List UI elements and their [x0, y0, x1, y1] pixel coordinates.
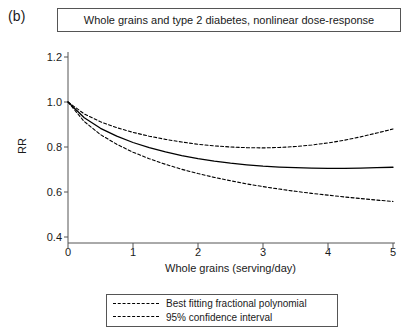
x-axis-title: Whole grains (serving/day) [68, 262, 393, 274]
legend-item-confidence-interval: 95% confidence interval [113, 312, 331, 324]
legend-label-confidence-interval: 95% confidence interval [166, 312, 272, 323]
y-tick-label-5: 0.4 [34, 231, 62, 243]
y-tick-label-1: 1.2 [34, 51, 62, 63]
figure-panel-b: (b) Whole grains and type 2 diabetes, no… [0, 0, 410, 334]
series-1 [68, 102, 393, 148]
legend-label-best-fit: Best fitting fractional polynomial [166, 298, 307, 309]
chart-title-box: Whole grains and type 2 diabetes, nonlin… [57, 8, 401, 32]
y-axis-ticks [64, 57, 68, 237]
y-tick-label-4: 0.6 [34, 186, 62, 198]
panel-label: (b) [8, 8, 26, 24]
x-axis-ticks [68, 243, 393, 249]
legend-key-solid-line-icon [113, 303, 159, 305]
x-tick-label-4: 4 [318, 246, 338, 258]
y-axis-title: RR [16, 116, 28, 176]
x-tick-label-5: 5 [383, 246, 403, 258]
y-tick-label-2: 1.0 [34, 96, 62, 108]
x-tick-label-1: 1 [123, 246, 143, 258]
x-tick-label-3: 3 [253, 246, 273, 258]
chart-curves [68, 102, 393, 201]
axis-lines [68, 52, 395, 243]
x-tick-label-0: 0 [58, 246, 78, 258]
x-tick-label-2: 2 [188, 246, 208, 258]
chart-legend: Best fitting fractional polynomial 95% c… [106, 294, 338, 327]
chart-title: Whole grains and type 2 diabetes, nonlin… [84, 14, 374, 26]
legend-item-best-fit: Best fitting fractional polynomial [113, 298, 331, 310]
series-2 [68, 102, 393, 201]
legend-key-dashed-line-icon [113, 316, 159, 318]
series-0 [68, 102, 393, 168]
y-tick-label-3: 0.8 [34, 141, 62, 153]
